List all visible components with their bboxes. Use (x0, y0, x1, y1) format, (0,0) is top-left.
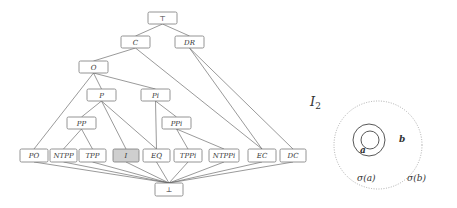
edge-P-I (102, 101, 127, 149)
edge-top-C (136, 24, 163, 36)
label-sigma-a: σ(a) (357, 173, 376, 183)
edge-DR-DC (190, 48, 294, 149)
node-label: Pi (151, 92, 159, 100)
label-a: a (360, 145, 366, 155)
edge-O-PO (34, 73, 94, 149)
node-label: PP (76, 120, 87, 128)
node-label: DC (287, 152, 300, 160)
edge-top-DR (163, 24, 190, 36)
node-DC: DC (280, 149, 306, 162)
node-label: P (98, 92, 104, 100)
lattice-nodes: ⊤CDROPPiPPPPiPONTPPTPPIEQTPPiNTPPiECDC⊥ (20, 12, 306, 196)
node-label: DR (183, 39, 196, 47)
node-PO: PO (20, 149, 48, 162)
node-NTPPi: NTPPi (209, 149, 239, 162)
node-Pi: Pi (141, 89, 170, 101)
node-label: NTPP (52, 152, 74, 160)
node-TPP: TPP (79, 149, 106, 162)
node-DR: DR (175, 36, 204, 48)
edge-P-EQ (102, 101, 157, 149)
node-I: I (113, 149, 139, 162)
node-label: PO (28, 152, 40, 160)
node-top: ⊤ (148, 12, 177, 24)
edge-PO-bottom (34, 162, 169, 183)
node-label: I (124, 152, 128, 160)
edge-O-P (94, 73, 102, 89)
node-PPi: PPi (162, 117, 191, 129)
node-C: C (121, 36, 150, 48)
node-TPPi: TPPi (174, 149, 202, 162)
edge-C-O (94, 48, 136, 61)
node-label: NTPPi (212, 152, 235, 160)
node-EC: EC (248, 149, 276, 162)
region-sigma-b-outer (334, 101, 422, 189)
node-label: C (133, 39, 139, 47)
node-P: P (87, 89, 116, 101)
node-label: O (91, 64, 97, 72)
edge-NTPP-bottom (64, 162, 170, 183)
edge-PPi-NTPPi (177, 129, 225, 149)
rcc8-lattice-diagram: ⊤CDROPPiPPPPiPONTPPTPPIEQTPPiNTPPiECDC⊥ (0, 0, 320, 208)
edge-DR-EC (190, 48, 263, 149)
node-EQ: EQ (143, 149, 170, 162)
node-label: PPi (170, 120, 183, 128)
edge-TPPi-bottom (169, 162, 188, 183)
node-label: EQ (150, 152, 162, 160)
region-b-circle (353, 124, 385, 156)
node-PP: PP (67, 117, 96, 129)
edge-Pi-PPi (156, 101, 177, 117)
edge-PPi-TPPi (177, 129, 189, 149)
edge-DC-bottom (169, 162, 293, 183)
region-a-circle (361, 131, 379, 149)
node-label: TPPi (180, 152, 196, 160)
edge-TPP-bottom (93, 162, 170, 183)
edge-PP-TPP (82, 129, 93, 149)
edge-O-Pi (94, 73, 156, 89)
node-label: EC (256, 152, 268, 160)
node-O: O (79, 61, 108, 73)
label-b: b (399, 134, 405, 144)
edge-Pi-EQ (156, 101, 157, 149)
edge-P-PP (82, 101, 102, 117)
node-bottom: ⊥ (155, 183, 183, 196)
edge-PP-NTPP (64, 129, 82, 149)
node-label: ⊤ (159, 15, 166, 23)
label-sigma-b: σ(b) (407, 173, 426, 183)
node-label: ⊥ (166, 186, 173, 194)
node-label: TPP (85, 152, 99, 160)
node-NTPP: NTPP (50, 149, 77, 162)
